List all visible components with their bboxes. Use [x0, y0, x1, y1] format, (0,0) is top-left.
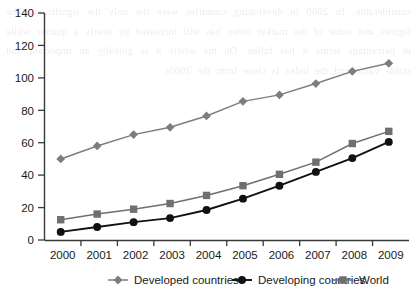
series-line: [61, 142, 389, 232]
square-marker: [239, 182, 246, 189]
square-marker: [276, 171, 283, 178]
x-tick-label: 2001: [86, 249, 112, 261]
x-tick-label: 2004: [196, 249, 222, 261]
y-tick-label: 80: [21, 105, 34, 117]
y-tick-label: 140: [15, 7, 34, 19]
y-tick-label: 40: [21, 169, 34, 181]
diamond-marker: [202, 112, 211, 121]
circle-marker: [93, 223, 101, 231]
circle-marker: [312, 168, 320, 176]
line-chart: 140 120 100 80 60 40 20 0 20002001200220…: [0, 0, 417, 297]
x-tick-label: 2005: [232, 249, 258, 261]
legend-label: Developed countries: [134, 274, 239, 286]
diamond-marker: [166, 123, 175, 132]
circle-marker: [130, 218, 138, 226]
square-marker: [312, 158, 319, 165]
x-tick-label: 2007: [305, 249, 331, 261]
diamond-marker: [348, 67, 357, 76]
square-marker: [93, 210, 100, 217]
circle-marker: [385, 138, 393, 146]
square-marker: [166, 200, 173, 207]
x-axis-labels: 2000200120022003200420052006200720082009: [50, 249, 404, 261]
diamond-marker: [93, 142, 102, 151]
diamond-marker: [275, 90, 284, 99]
circle-marker: [166, 214, 174, 222]
circle-marker: [275, 182, 283, 190]
legend-item[interactable]: Developed countries: [108, 274, 239, 286]
x-tick-label: 2009: [378, 249, 404, 261]
circle-marker: [57, 228, 65, 236]
square-marker: [130, 205, 137, 212]
y-tick-label: 60: [21, 137, 34, 149]
y-tick-label: 20: [21, 202, 34, 214]
diamond-marker: [114, 276, 123, 285]
chart-container: considerable. In 2000 in developing coun…: [0, 0, 417, 297]
square-marker: [349, 140, 356, 147]
diamond-marker: [384, 59, 393, 68]
y-tick-label: 100: [15, 72, 34, 84]
chart-legend: Developed countriesDeveloping countriesW…: [108, 274, 389, 286]
series-developing-countries: [57, 138, 393, 236]
circle-marker: [238, 276, 246, 284]
series-layer: [56, 59, 393, 236]
diamond-marker: [239, 97, 248, 106]
square-marker: [57, 216, 64, 223]
series-line: [61, 63, 389, 159]
square-marker: [385, 128, 392, 135]
square-marker: [339, 276, 346, 283]
diamond-marker: [56, 155, 65, 164]
series-line: [61, 131, 389, 219]
x-tick-label: 2003: [159, 249, 185, 261]
diamond-marker: [311, 79, 320, 88]
square-marker: [203, 192, 210, 199]
diamond-marker: [129, 130, 138, 139]
x-tick-label: 2008: [342, 249, 368, 261]
y-axis-ticks: [38, 13, 45, 240]
y-tick-label: 0: [28, 234, 34, 246]
x-tick-label: 2002: [123, 249, 149, 261]
y-axis-labels: 140 120 100 80 60 40 20 0: [15, 7, 34, 246]
circle-marker: [239, 195, 247, 203]
x-tick-label: 2000: [50, 249, 76, 261]
legend-label: World: [359, 274, 389, 286]
circle-marker: [203, 206, 211, 214]
circle-marker: [348, 154, 356, 162]
y-tick-label: 120: [15, 40, 34, 52]
x-tick-label: 2006: [269, 249, 295, 261]
